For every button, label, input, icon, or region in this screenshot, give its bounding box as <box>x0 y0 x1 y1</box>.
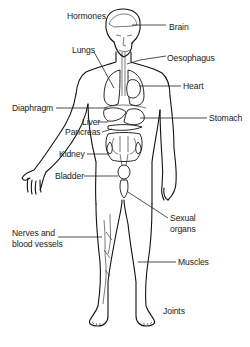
label-sexual-organs-line1: Sexual <box>170 213 196 223</box>
label-bladder: Bladder <box>55 171 84 181</box>
label-oesophagus: Oesophagus <box>167 53 215 63</box>
anatomy-diagram: Hormones Brain Lungs Oesophagus Heart Di… <box>0 0 250 347</box>
label-heart: Heart <box>183 81 204 91</box>
label-diaphragm: Diaphragm <box>12 103 53 113</box>
label-stomach: Stomach <box>209 113 242 123</box>
label-brain: Brain <box>169 22 189 32</box>
label-lungs: Lungs <box>72 45 95 55</box>
head <box>106 9 140 57</box>
label-nerves-line1: Nerves and <box>12 228 55 238</box>
label-nerves-line2: blood vessels <box>12 239 63 249</box>
label-joints: Joints <box>163 306 185 316</box>
label-kidney: Kidney <box>59 149 85 159</box>
label-sexual-organs-line2: organs <box>170 224 196 234</box>
label-hormones: Hormones <box>67 11 106 21</box>
label-pancreas: Pancreas <box>65 127 101 137</box>
label-liver: Liver <box>82 117 100 127</box>
label-muscles: Muscles <box>178 257 209 267</box>
